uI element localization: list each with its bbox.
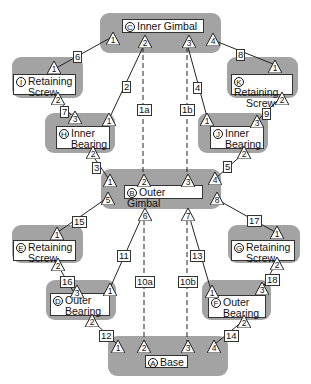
component-label-retaining-screw-g: GRetaining Screw (231, 240, 295, 261)
port-triangle-d1: 1 (103, 283, 117, 296)
port-number: 1 (103, 177, 117, 187)
port-triangle-a2: 2 (137, 340, 151, 353)
port-number: 1 (47, 64, 61, 74)
port-triangle-i2: 2 (51, 92, 65, 105)
port-triangle-b6: 6 (138, 208, 152, 221)
connection-tag-7: 7 (60, 106, 69, 118)
connection-tag-10a: 10a (135, 276, 155, 288)
port-number: 8 (210, 195, 224, 205)
component-label-inner-bearing-h: HInner Bearing (56, 126, 110, 149)
port-number: 1 (106, 35, 120, 45)
connection-tag-9: 9 (262, 108, 271, 120)
connection-tag-3: 3 (92, 162, 101, 174)
port-triangle-b2: 2 (137, 174, 151, 187)
port-triangle-h2: 2 (86, 146, 100, 159)
connection-tag-1b: 1b (180, 104, 195, 116)
port-number: 6 (138, 211, 152, 221)
port-triangle-b8: 8 (210, 192, 224, 205)
port-triangle-d2: 2 (85, 314, 99, 327)
port-triangle-h1: 1 (102, 113, 116, 126)
component-name: Base (160, 356, 184, 368)
port-triangle-b4: 4 (208, 172, 222, 185)
port-number: 2 (51, 261, 65, 271)
port-number: 1 (102, 116, 116, 126)
connection-tag-4: 4 (193, 82, 202, 94)
port-triangle-h3: 3 (68, 111, 82, 124)
port-number: 2 (138, 38, 152, 48)
connection-tag-18: 18 (265, 274, 280, 286)
port-number: 5 (101, 195, 115, 205)
connection-tag-16: 16 (60, 276, 75, 288)
port-triangle-f2: 2 (237, 315, 251, 328)
port-number: 3 (182, 38, 196, 48)
port-triangle-b7: 7 (181, 208, 195, 221)
port-triangle-c4: 4 (206, 33, 220, 46)
port-number: 2 (237, 318, 251, 328)
port-number: 1 (103, 286, 117, 296)
port-triangle-k1: 1 (268, 60, 282, 73)
connection-tag-5: 5 (223, 161, 232, 173)
port-number: 1 (205, 288, 219, 298)
component-letter-a: A (148, 358, 158, 368)
port-number: 2 (137, 343, 151, 353)
component-name-line2: Bearing (211, 307, 259, 319)
connection-tag-15: 15 (72, 216, 87, 228)
component-letter-c: C (125, 22, 135, 32)
port-triangle-b1: 1 (103, 174, 117, 187)
port-triangle-e1: 1 (50, 227, 64, 240)
connection-tag-14: 14 (224, 330, 239, 342)
port-number: 3 (255, 285, 269, 295)
port-triangle-a3: 3 (181, 340, 195, 353)
port-triangle-b3: 3 (181, 174, 195, 187)
port-number: 4 (206, 36, 220, 46)
component-label-retaining-screw-e: ERetaining Screw (13, 240, 76, 261)
connection-tag-10b: 10b (178, 276, 198, 288)
connection-tag-2: 2 (122, 81, 131, 93)
port-number: 2 (51, 95, 65, 105)
port-triangle-c3: 3 (182, 35, 196, 48)
port-triangle-j1: 1 (200, 113, 214, 126)
port-triangle-e2: 2 (51, 258, 65, 271)
port-number: 3 (181, 343, 195, 353)
port-triangle-i1: 1 (47, 61, 61, 74)
port-number: 4 (208, 175, 222, 185)
port-number: 2 (86, 149, 100, 159)
port-number: 2 (137, 177, 151, 187)
port-number: 2 (237, 149, 251, 159)
connection-tag-17: 17 (247, 215, 262, 227)
port-number: 3 (70, 288, 84, 298)
port-triangle-k2: 2 (275, 92, 289, 105)
port-number: 3 (181, 177, 195, 187)
component-name-line2: Screw (234, 252, 275, 264)
connection-tag-8: 8 (236, 49, 245, 61)
assembly-liaison-diagram: CInner Gimbal IRetaining Screw KRetainin… (0, 0, 311, 384)
port-number: 2 (85, 317, 99, 327)
port-number: 1 (50, 230, 64, 240)
port-triangle-g1: 1 (270, 226, 284, 239)
connection-tag-6: 6 (73, 51, 82, 63)
port-triangle-j2: 2 (237, 146, 251, 159)
port-triangle-c2: 2 (138, 35, 152, 48)
component-label-outer-gimbal: BOuter Gimbal (124, 185, 203, 199)
port-triangle-f1: 1 (205, 285, 219, 298)
connection-tag-13: 13 (190, 250, 205, 262)
port-number: 4 (207, 343, 221, 353)
port-triangle-c1: 1 (106, 32, 120, 45)
port-number: 1 (268, 63, 282, 73)
port-number: 3 (68, 114, 82, 124)
port-triangle-a4: 4 (207, 340, 221, 353)
port-triangle-b5: 5 (101, 192, 115, 205)
port-triangle-g2: 2 (270, 257, 284, 270)
component-label-inner-gimbal: CInner Gimbal (122, 19, 204, 33)
connection-tag-1a: 1a (137, 104, 152, 116)
port-number: 1 (200, 116, 214, 126)
port-number: 1 (111, 343, 125, 353)
port-number: 7 (181, 211, 195, 221)
connection-tag-11: 11 (117, 250, 131, 262)
port-number: 1 (270, 229, 284, 239)
connection-tag-12: 12 (99, 330, 114, 342)
component-label-base: ABase (145, 355, 188, 368)
component-name: Inner Gimbal (137, 20, 197, 32)
port-number: 2 (270, 260, 284, 270)
component-label-retaining-screw-i: IRetaining Screw (13, 74, 76, 95)
